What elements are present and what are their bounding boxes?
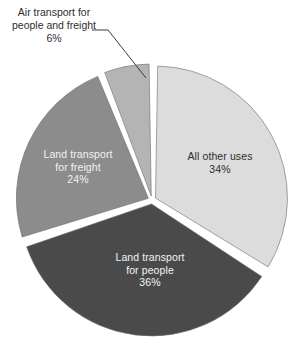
pie-chart-canvas [0, 0, 296, 348]
pie-callout-text-line-1: Air transport for [2, 6, 106, 19]
pie-callout-value: 6% [2, 32, 106, 45]
pie-slices [16, 64, 287, 336]
pie-callout-text-line-2: people and freight [2, 19, 106, 32]
pie-callout-air-transport: Air transport for people and freight 6% [2, 6, 106, 45]
pie-chart: All other uses 34% Land transport for pe… [0, 0, 296, 348]
